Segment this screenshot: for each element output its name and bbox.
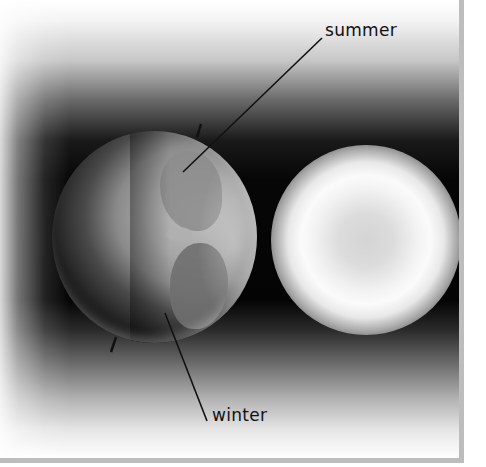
axis-top-stub <box>197 124 201 137</box>
summer-label: summer <box>325 20 397 40</box>
sun-icon <box>271 145 459 335</box>
earth-rim <box>52 131 257 343</box>
axis-bottom-stub <box>111 337 116 352</box>
earth-icon <box>52 131 257 343</box>
figure-panel: summer winter <box>0 0 459 458</box>
winter-label: winter <box>212 405 267 425</box>
